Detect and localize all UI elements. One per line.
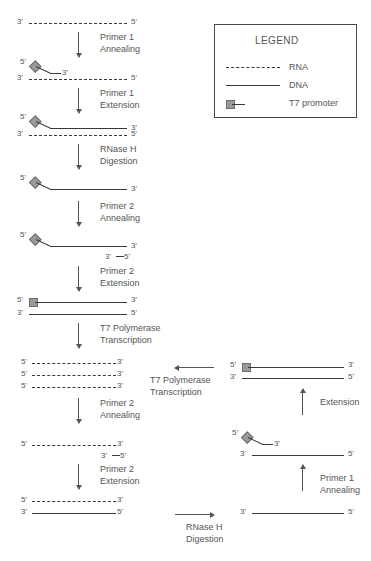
- end-label-3prime: 3': [62, 69, 68, 77]
- end-label-5prime: 5': [21, 440, 27, 448]
- arrow-t7-transcription: [78, 323, 79, 345]
- end-label-5prime: 5': [21, 358, 27, 366]
- primer-dna-segment: [51, 73, 61, 74]
- step-extension-right: Extension: [320, 397, 360, 409]
- end-label-3prime: 3': [17, 74, 23, 82]
- end-label-3prime: 3': [230, 373, 236, 381]
- end-label-5prime: 5': [21, 382, 27, 390]
- primer-dna-segment: [263, 444, 273, 445]
- step-t7-transcription: T7 Polymerase Transcription: [100, 323, 161, 346]
- step-line1: Primer 1: [100, 88, 134, 98]
- end-label-5prime: 5': [20, 113, 26, 121]
- end-label-3prime: 3': [101, 452, 107, 460]
- end-label-3prime: 3': [117, 496, 123, 504]
- step-line2: Transcription: [150, 387, 202, 397]
- rna-strand: [29, 79, 127, 80]
- cdna-strand: [51, 246, 127, 247]
- rna-strand: [32, 363, 116, 364]
- end-label-5prime: 5': [117, 508, 123, 516]
- cdna-strand: [51, 128, 127, 129]
- end-label-3prime: 3': [117, 382, 123, 390]
- rna-swatch: [226, 67, 280, 68]
- step-line2: Annealing: [100, 44, 140, 54]
- step-line2: Annealing: [100, 410, 140, 420]
- rna-strand: [32, 501, 116, 502]
- cdna-strand: [51, 189, 127, 190]
- step-primer1-annealing-right: Primer 1 Annealing: [320, 473, 360, 496]
- step-t7-transcription-right: T7 Polymerase Transcription: [150, 375, 211, 398]
- end-label-5prime: 5': [348, 508, 354, 516]
- arrow-primer1-annealing-right: [302, 468, 303, 491]
- arrow-rnaseh-digestion-right: [175, 514, 211, 515]
- end-label-3prime: 3': [17, 309, 23, 317]
- arrow-primer2-extension: [78, 266, 79, 288]
- arrow-primer1-extension: [78, 88, 79, 110]
- promoter-tail: [36, 121, 52, 129]
- end-label-3prime: 3': [117, 358, 123, 366]
- end-label-3prime: 3': [117, 370, 123, 378]
- cdna-strand: [252, 513, 344, 514]
- promoter-tail: [248, 437, 264, 445]
- step-line1: Primer 1: [320, 473, 354, 483]
- step-rnaseh-digestion: RNase H Digestion: [100, 144, 138, 167]
- end-label-5prime: 5': [21, 370, 27, 378]
- end-label-5prime: 5': [124, 253, 130, 261]
- promoter-tail: [36, 66, 52, 74]
- step-line2: Digestion: [100, 156, 138, 166]
- end-label-5prime: 5': [131, 74, 137, 82]
- rna-strand: [32, 387, 116, 388]
- legend-item-dna-label: DNA: [289, 80, 308, 90]
- step-line1: Primer 2: [100, 464, 134, 474]
- end-label-5prime: 5': [17, 296, 23, 304]
- arrow-primer2-extension-2: [78, 464, 79, 486]
- step-primer1-extension: Primer 1 Extension: [100, 88, 140, 111]
- promoter-tail: [36, 182, 52, 190]
- step-line2: Extension: [100, 100, 140, 110]
- step-line1: Primer 1: [100, 32, 134, 42]
- end-label-3prime: 3': [117, 440, 123, 448]
- end-label-5prime: 5': [230, 361, 236, 369]
- step-line1: RNase H: [100, 144, 137, 154]
- end-label-3prime: 3': [240, 450, 246, 458]
- cdna-strand: [252, 455, 344, 456]
- end-label-3prime: 3': [131, 242, 137, 250]
- promoter-tail: [36, 239, 52, 247]
- end-label-3prime: 3': [21, 508, 27, 516]
- step-line2: Annealing: [100, 213, 140, 223]
- step-line1: Primer 2: [100, 266, 134, 276]
- end-label-3prime: 3': [105, 253, 111, 261]
- end-label-5prime: 5': [232, 429, 238, 437]
- dna-top-strand: [248, 367, 344, 368]
- end-label-5prime: 5': [348, 450, 354, 458]
- step-primer2-annealing: Primer 2 Annealing: [100, 201, 140, 224]
- rna-strand: [29, 135, 127, 136]
- arrow-extension-right: [302, 392, 303, 415]
- arrow-primer2-annealing-2: [78, 398, 79, 420]
- rna-strand: [32, 375, 116, 376]
- legend-item-t7-label: T7 promoter: [289, 98, 338, 108]
- legend-box: LEGEND RNA DNA T7 promoter: [214, 24, 357, 118]
- end-label-3prime: 3': [17, 130, 23, 138]
- arrow-primer1-annealing: [78, 32, 79, 54]
- rna-strand: [29, 23, 127, 24]
- legend-title: LEGEND: [255, 35, 299, 46]
- end-label-5prime: 5': [120, 452, 126, 460]
- end-label-3prime: 3': [274, 440, 280, 448]
- primer2-segment: [112, 455, 120, 456]
- end-label-5prime: 5': [20, 58, 26, 66]
- step-line2: Annealing: [320, 485, 360, 495]
- figure-canvas: LEGEND RNA DNA T7 promoter 3' 5' Primer …: [0, 0, 371, 561]
- step-line2: Transcription: [100, 335, 152, 345]
- arrow-t7-transcription-right: [178, 367, 214, 368]
- primer2-segment: [116, 256, 124, 257]
- end-label-5prime: 5': [20, 174, 26, 182]
- step-primer2-extension: Primer 2 Extension: [100, 266, 140, 289]
- dna-top-strand: [35, 302, 127, 303]
- arrow-rnaseh-digestion: [78, 144, 79, 166]
- end-label-3prime: 3': [131, 185, 137, 193]
- arrow-primer2-annealing: [78, 201, 79, 223]
- step-line1: Primer 2: [100, 398, 134, 408]
- end-label-3prime: 3': [240, 508, 246, 516]
- dna-bottom-strand: [242, 378, 344, 379]
- step-rnaseh-digestion-right: RNase H Digestion: [186, 522, 224, 545]
